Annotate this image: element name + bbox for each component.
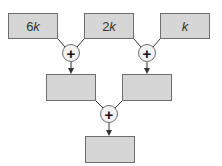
input-box-k: k	[160, 13, 210, 39]
output-box	[85, 136, 135, 163]
intermediate-box-left	[46, 74, 96, 101]
variable: k	[109, 19, 116, 34]
variable: k	[33, 19, 40, 34]
coefficient: 2	[102, 19, 109, 34]
input-box-6k: 6k	[8, 13, 58, 39]
variable: k	[182, 19, 189, 34]
coefficient: 6	[26, 19, 33, 34]
input-box-2k: 2k	[84, 13, 134, 39]
plus-icon: +	[62, 44, 80, 62]
plus-icon: +	[100, 105, 118, 123]
intermediate-box-right	[122, 74, 172, 101]
plus-icon: +	[138, 44, 156, 62]
